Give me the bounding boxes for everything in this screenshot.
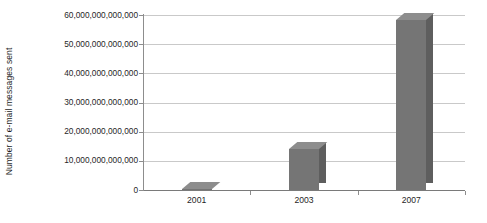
y-axis-tick-label: 50,000,000,000,000	[20, 40, 138, 49]
y-axis-tick-mark	[139, 15, 144, 16]
y-axis-tick-mark	[139, 132, 144, 133]
y-axis-tick-label: 60,000,000,000,000	[20, 11, 138, 20]
y-axis-tick-label: 30,000,000,000,000	[20, 98, 138, 107]
bar-front-face	[289, 149, 319, 190]
x-axis-tick-labels: 200120032007	[143, 195, 465, 209]
y-axis-tick-mark	[139, 103, 144, 104]
bar[interactable]	[182, 15, 212, 190]
bar[interactable]	[396, 15, 426, 190]
x-axis-tick-label: 2003	[250, 195, 357, 206]
x-axis-tick-mark	[465, 191, 466, 195]
y-axis-tick-mark	[139, 44, 144, 45]
y-axis-tick-label: 0	[20, 186, 138, 195]
bar[interactable]	[289, 15, 319, 190]
bar-front-face	[396, 20, 426, 190]
y-axis-tick-mark	[139, 73, 144, 74]
bar-chart: Number of e-mail messages sent 010,000,0…	[0, 0, 487, 223]
x-axis-line	[143, 190, 465, 191]
y-axis-tick-mark	[139, 190, 144, 191]
x-axis-tick-mark	[358, 191, 359, 195]
bar-side-face	[426, 13, 433, 183]
y-axis-tick-mark	[139, 161, 144, 162]
y-axis-tick-label: 40,000,000,000,000	[20, 69, 138, 78]
x-axis-tick-label: 2007	[358, 195, 465, 206]
y-axis-title: Number of e-mail messages sent	[0, 0, 18, 223]
x-axis-tick-mark	[250, 191, 251, 195]
x-axis-tick-label: 2001	[143, 195, 250, 206]
y-axis-tick-label: 20,000,000,000,000	[20, 127, 138, 136]
y-axis-tick-label: 10,000,000,000,000	[20, 156, 138, 165]
bar-top-face	[182, 182, 220, 189]
y-axis-tick-labels: 010,000,000,000,00020,000,000,000,00030,…	[20, 0, 138, 223]
plot-area	[143, 15, 465, 190]
